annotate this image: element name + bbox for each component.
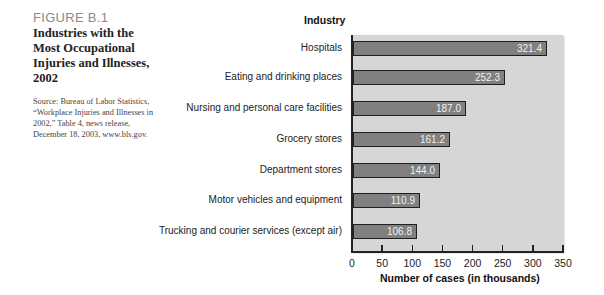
category-label: Motor vehicles and equipment [209, 194, 342, 205]
x-tick-label: 50 [376, 257, 388, 269]
bar: 106.8 [353, 224, 417, 239]
bar: 161.2 [353, 132, 450, 147]
category-label: Grocery stores [276, 133, 342, 144]
y-axis-title: Industry [304, 14, 345, 26]
bar-value-label: 252.3 [475, 72, 500, 83]
figure-title: Industries with the Most Occupational In… [33, 26, 158, 86]
category-label: Nursing and personal care facilities [186, 102, 342, 113]
bar: 321.4 [353, 41, 547, 56]
x-tick-mark [442, 245, 444, 252]
x-tick-mark [381, 245, 383, 252]
x-tick-label: 0 [349, 257, 355, 269]
x-tick-label: 250 [494, 257, 512, 269]
x-tick-mark [532, 245, 534, 252]
category-label: Department stores [260, 164, 342, 175]
bar: 110.9 [353, 193, 420, 208]
bar-value-label: 144.0 [410, 165, 435, 176]
figure-source: Source: Bureau of Labor Statistics, “Wor… [33, 96, 158, 140]
x-tick-mark [502, 245, 504, 252]
bar-value-label: 106.8 [387, 226, 412, 237]
category-label: Trucking and courier services (except ai… [159, 225, 342, 236]
x-tick-label: 350 [554, 257, 572, 269]
x-tick-label: 300 [524, 257, 542, 269]
bar-value-label: 187.0 [436, 103, 461, 114]
x-tick-mark [412, 245, 414, 252]
bar-value-label: 161.2 [420, 134, 445, 145]
x-tick-label: 200 [464, 257, 482, 269]
x-tick-mark [472, 245, 474, 252]
category-label: Eating and drinking places [225, 71, 342, 82]
x-tick-mark [562, 245, 564, 252]
x-tick-label: 150 [434, 257, 452, 269]
category-label: Hospitals [301, 42, 342, 53]
figure-number: FIGURE B.1 [33, 10, 158, 25]
bar-value-label: 321.4 [517, 43, 542, 54]
bar: 144.0 [353, 163, 440, 178]
x-tick-label: 100 [404, 257, 422, 269]
bar-value-label: 110.9 [391, 195, 415, 206]
figure-caption: FIGURE B.1 Industries with the Most Occu… [33, 10, 158, 140]
bar: 252.3 [353, 70, 505, 85]
bar: 187.0 [353, 101, 466, 116]
y-axis-line [351, 35, 353, 253]
x-axis-title: Number of cases (in thousands) [380, 272, 540, 284]
